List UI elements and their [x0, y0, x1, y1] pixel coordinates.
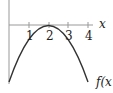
parabola-diagram: 1 2 3 4 x f(x: [0, 0, 113, 93]
x-tick-label-3: 3: [65, 29, 73, 43]
x-tick-label-2: 2: [46, 29, 54, 43]
x-tick-label-4: 4: [85, 29, 93, 43]
x-axis-label: x: [99, 17, 106, 31]
function-label: f(x: [95, 75, 112, 89]
x-tick-label-1: 1: [26, 29, 34, 43]
